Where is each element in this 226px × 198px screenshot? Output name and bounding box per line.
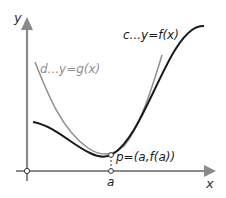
point-p-marker <box>109 153 114 158</box>
y-axis-arrow-icon <box>21 17 33 30</box>
curve-g-label: d...y=g(x) <box>40 62 100 76</box>
y-axis-label: y <box>13 10 22 25</box>
curve-f <box>33 26 204 157</box>
origin-marker <box>24 168 29 173</box>
curve-f-label: c...y=f(x) <box>123 28 179 42</box>
x-axis-label: x <box>205 176 214 191</box>
a-label: a <box>107 175 114 189</box>
point-p-label: p=(a,f(a)) <box>115 150 175 164</box>
point-a-marker <box>109 169 114 174</box>
tangent-diagram: y x d...y=g(x) c...y=f(x) p=(a,f(a)) a <box>0 0 226 198</box>
